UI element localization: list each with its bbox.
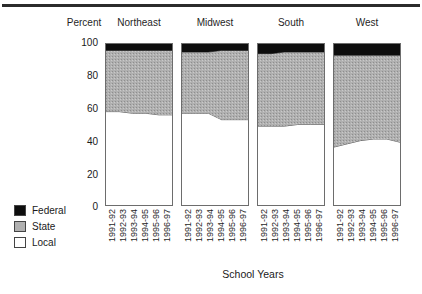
panel-title-west: West <box>333 16 401 30</box>
x-tick-label: 1994-95 <box>217 209 226 267</box>
area-local <box>106 112 172 205</box>
x-tick-group-northeast: 1991-92 1992-93 1993-94 1994-95 1995-96 … <box>105 209 173 267</box>
panel-svg-midwest <box>182 44 248 205</box>
y-axis-title: Percent <box>60 16 108 30</box>
legend-label-state: State <box>32 221 55 232</box>
panel-title-south: South <box>257 16 325 30</box>
x-tick-label: 1993-94 <box>282 209 291 267</box>
x-tick-label: 1993-94 <box>358 209 367 267</box>
x-tick-label: 1995-96 <box>228 209 237 267</box>
x-tick-label: 1992-93 <box>119 209 128 267</box>
x-tick-label: 1994-95 <box>293 209 302 267</box>
legend-swatch-federal-icon <box>14 205 26 216</box>
y-tick-80: 80 <box>87 71 98 81</box>
x-tick-label: 1993-94 <box>206 209 215 267</box>
area-state <box>106 50 172 114</box>
area-federal <box>106 44 172 50</box>
x-tick-group-west: 1991-92 1992-93 1993-94 1994-95 1995-96 … <box>333 209 401 267</box>
legend-swatch-local-icon <box>14 237 26 248</box>
area-state <box>334 55 400 147</box>
y-tick-60: 60 <box>87 104 98 114</box>
x-tick-label: 1991-92 <box>260 209 269 267</box>
x-tick-label: 1992-93 <box>271 209 280 267</box>
x-tick-label: 1995-96 <box>304 209 313 267</box>
y-tick-100: 100 <box>81 38 98 48</box>
x-tick-label: 1991-92 <box>336 209 345 267</box>
x-tick-label: 1995-96 <box>152 209 161 267</box>
x-tick-group-midwest: 1991-92 1992-93 1993-94 1994-95 1995-96 … <box>181 209 249 267</box>
x-tick-label: 1994-95 <box>141 209 150 267</box>
x-tick-label: 1996-97 <box>391 209 400 267</box>
panel-title-northeast: Northeast <box>105 16 173 30</box>
stacked-area-chart: Percent Northeast Midwest South West 100… <box>0 0 422 294</box>
plot-panel-midwest <box>181 43 249 206</box>
legend-item-federal: Federal <box>14 202 98 218</box>
area-federal <box>334 44 400 55</box>
area-local <box>334 139 400 205</box>
legend-item-local: Local <box>14 234 98 250</box>
x-tick-label: 1995-96 <box>380 209 389 267</box>
x-tick-group-south: 1991-92 1992-93 1993-94 1994-95 1995-96 … <box>257 209 325 267</box>
legend-label-federal: Federal <box>32 205 66 216</box>
x-tick-label: 1991-92 <box>184 209 193 267</box>
x-tick-label: 1992-93 <box>195 209 204 267</box>
plot-panel-northeast <box>105 43 173 206</box>
panel-svg-west <box>334 44 400 205</box>
legend-swatch-state-icon <box>14 221 26 232</box>
area-local <box>258 125 324 206</box>
y-tick-20: 20 <box>87 170 98 180</box>
panel-svg-south <box>258 44 324 205</box>
area-local <box>182 113 248 205</box>
panel-title-midwest: Midwest <box>181 16 249 30</box>
area-state <box>258 52 324 126</box>
legend-item-state: State <box>14 218 98 234</box>
x-tick-label: 1996-97 <box>163 209 172 267</box>
x-tick-label: 1991-92 <box>108 209 117 267</box>
x-tick-label: 1993-94 <box>130 209 139 267</box>
x-axis-title: School Years <box>105 268 401 280</box>
chart-legend: Federal State Local <box>14 202 98 250</box>
panel-header-row: Percent Northeast Midwest South West <box>0 16 422 32</box>
y-tick-40: 40 <box>87 137 98 147</box>
top-divider-rule <box>2 4 420 7</box>
panel-svg-northeast <box>106 44 172 205</box>
legend-label-local: Local <box>32 237 56 248</box>
plot-panel-west <box>333 43 401 206</box>
area-state <box>182 50 248 119</box>
y-axis: 100 80 60 40 20 0 <box>62 38 102 210</box>
x-tick-label: 1996-97 <box>315 209 324 267</box>
plot-panel-south <box>257 43 325 206</box>
x-tick-label: 1992-93 <box>347 209 356 267</box>
x-tick-label: 1996-97 <box>239 209 248 267</box>
x-tick-label: 1994-95 <box>369 209 378 267</box>
